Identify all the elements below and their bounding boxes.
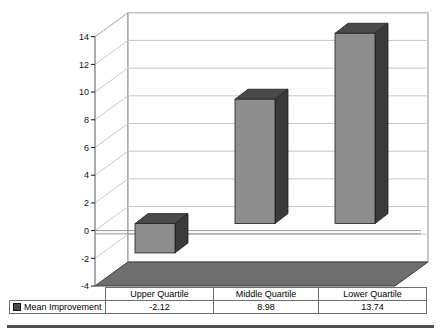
y-tick-label: 4	[84, 170, 89, 180]
bar-side-face	[275, 89, 288, 223]
bottom-horizontal-rule	[7, 325, 434, 328]
chart-plot-area: 14121086420-2-4	[0, 0, 444, 290]
table-value-middle-quartile: 8.98	[213, 300, 319, 314]
bar-side-face	[375, 23, 388, 223]
y-tick-label: 0	[84, 226, 89, 236]
bar-upper-quartile	[135, 214, 188, 253]
y-tick-label: 12	[79, 60, 89, 70]
3d-bar-chart-figure: 14121086420-2-4 Upper Quartile Middle Qu…	[0, 0, 444, 334]
bar-middle-quartile	[235, 89, 288, 223]
bar-front-face	[135, 224, 175, 253]
bar-front-face	[235, 99, 275, 223]
y-tick-label: -4	[81, 281, 89, 290]
bar-front-face	[335, 33, 375, 223]
left-wall	[95, 13, 128, 286]
table-value-upper-quartile: -2.12	[105, 300, 214, 314]
y-tick-label: 10	[79, 87, 89, 97]
legend-cell: Mean Improvement	[9, 300, 106, 314]
table-header-lower-quartile: Lower Quartile	[318, 287, 427, 301]
table-value-lower-quartile: 13.74	[318, 300, 427, 314]
bar-lower-quartile	[335, 23, 388, 223]
series-key-icon	[13, 303, 21, 311]
y-tick-label: 2	[84, 198, 89, 208]
y-tick-label: 14	[79, 32, 89, 42]
y-tick-label: 6	[84, 143, 89, 153]
y-tick-label: 8	[84, 115, 89, 125]
table-header-middle-quartile: Middle Quartile	[213, 287, 319, 301]
table-header-upper-quartile: Upper Quartile	[105, 287, 214, 301]
floor	[95, 262, 428, 286]
series-name-label: Mean Improvement	[24, 301, 102, 313]
y-tick-label: -2	[81, 254, 89, 264]
